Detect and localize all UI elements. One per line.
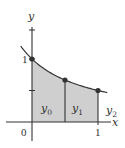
x-tick-label-0: 0 — [21, 126, 27, 138]
y-tick-label-0: 1 — [22, 53, 28, 65]
sample-point-1 — [62, 77, 67, 82]
sample-point-2 — [95, 88, 100, 93]
y-axis-label: y — [27, 10, 35, 23]
ordinate-label-2: y2 — [105, 104, 117, 119]
trapezoid-diagram: x y y0y1y2101 — [0, 0, 125, 148]
x-tick-label-1: 1 — [95, 126, 101, 138]
